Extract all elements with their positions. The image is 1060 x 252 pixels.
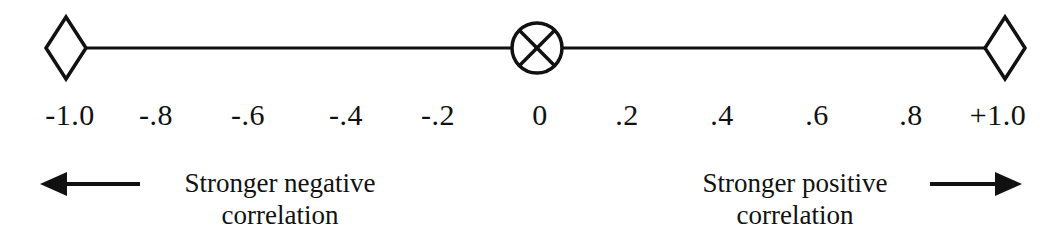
left-diamond-marker <box>46 17 86 79</box>
correlation-scale-figure: -1.0 -.8 -.6 -.4 -.2 0 .2 .4 .6 .8 +1.0 … <box>0 0 1060 252</box>
tick-label-pos-0-6: .6 <box>805 100 829 130</box>
right-diamond-marker <box>985 17 1025 79</box>
tick-label-pos-0-8: .8 <box>899 100 923 130</box>
tick-label-pos-0-4: .4 <box>710 100 734 130</box>
zero-circle-x-marker <box>512 23 562 73</box>
negative-correlation-caption: Stronger negative correlation <box>150 168 410 232</box>
negative-caption-line-1: Stronger negative <box>150 168 410 200</box>
tick-label-zero: 0 <box>532 100 548 130</box>
tick-label-neg-0-6: -.6 <box>231 100 265 130</box>
positive-caption-line-1: Stronger positive <box>665 168 925 200</box>
tick-label-pos-0-2: .2 <box>615 100 639 130</box>
negative-caption-line-2: correlation <box>150 200 410 232</box>
positive-caption-line-2: correlation <box>665 200 925 232</box>
positive-correlation-caption: Stronger positive correlation <box>665 168 925 232</box>
tick-label-neg-1-0: -1.0 <box>45 100 95 130</box>
left-arrow-icon <box>40 172 140 196</box>
tick-label-neg-0-8: -.8 <box>139 100 173 130</box>
tick-label-pos-1-0: +1.0 <box>970 100 1026 130</box>
tick-label-neg-0-4: -.4 <box>329 100 363 130</box>
right-arrow-icon <box>930 172 1022 196</box>
tick-label-neg-0-2: -.2 <box>421 100 455 130</box>
